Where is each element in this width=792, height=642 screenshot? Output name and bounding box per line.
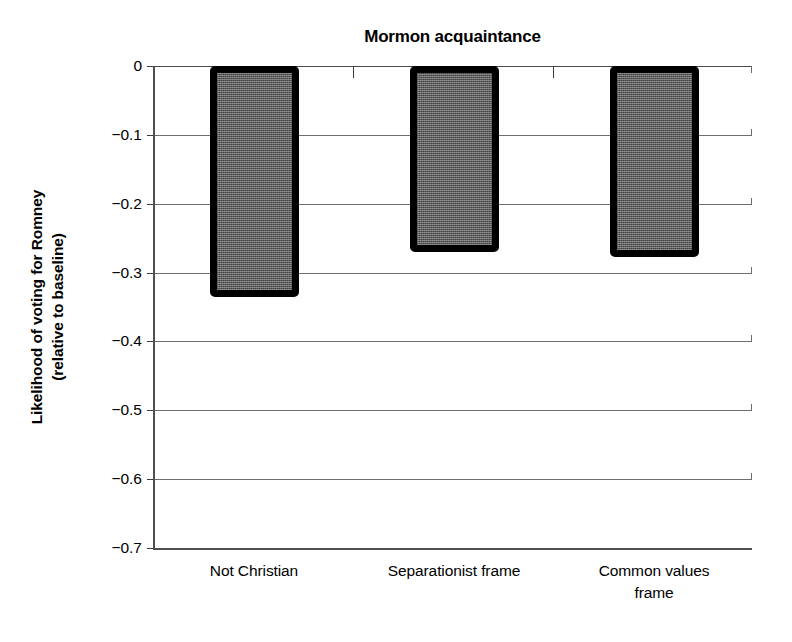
grid-end-tick-6 bbox=[751, 473, 752, 480]
x-tick-label-not-christian: Not Christian bbox=[154, 560, 354, 582]
x-axis-spine bbox=[153, 548, 752, 550]
grid-end-tick-4 bbox=[751, 335, 752, 342]
y-axis-title: Likelihood of voting for Romney (relativ… bbox=[25, 97, 69, 517]
bar-separationist-frame[interactable] bbox=[410, 66, 499, 252]
x-tick-label-separationist-frame: Separationist frame bbox=[354, 560, 554, 582]
y-tick-label-2: −0.2 bbox=[111, 196, 142, 212]
y-tick-label-4: −0.4 bbox=[111, 333, 142, 349]
y-tick-label-3: −0.3 bbox=[111, 265, 142, 281]
x-category-tick-2 bbox=[553, 67, 554, 78]
y-tick-label-7: −0.7 bbox=[111, 540, 142, 556]
grid-end-tick-5 bbox=[751, 404, 752, 411]
x-tick-label-common-values-frame: Common values frame bbox=[554, 560, 754, 604]
chart-title: Mormon acquaintance bbox=[153, 27, 752, 47]
y-tick-label-1: −0.1 bbox=[111, 127, 142, 143]
bar-not-christian[interactable] bbox=[210, 66, 299, 297]
y-tick-label-6: −0.6 bbox=[111, 471, 142, 487]
gridline-5: −0.5 bbox=[153, 410, 752, 411]
y-tick-label-5: −0.5 bbox=[111, 402, 142, 418]
x-tick-label-common-values-frame-line-2: frame bbox=[554, 582, 754, 604]
y-axis-title-line-2: (relative to baseline) bbox=[47, 233, 68, 381]
x-category-tick-1 bbox=[353, 67, 354, 78]
plot-area: 0 −0.1 −0.2 −0.3 −0.4 −0.5 bbox=[153, 66, 752, 548]
gridline-6: −0.6 bbox=[153, 479, 752, 480]
grid-end-tick-0 bbox=[751, 66, 752, 73]
x-tick-label-not-christian-line-1: Not Christian bbox=[154, 560, 354, 582]
x-tick-label-common-values-frame-line-1: Common values bbox=[554, 560, 754, 582]
grid-end-tick-3 bbox=[751, 267, 752, 274]
grid-end-tick-2 bbox=[751, 198, 752, 205]
bar-chart-figure: Mormon acquaintance Likelihood of voting… bbox=[0, 0, 792, 642]
x-tick-label-separationist-frame-line-1: Separationist frame bbox=[354, 560, 554, 582]
bar-common-values-frame[interactable] bbox=[610, 66, 699, 257]
grid-end-tick-1 bbox=[751, 129, 752, 136]
y-axis-title-line-1: Likelihood of voting for Romney bbox=[26, 190, 47, 425]
gridline-4: −0.4 bbox=[153, 341, 752, 342]
y-axis-spine bbox=[153, 66, 155, 549]
y-tick-label-0: 0 bbox=[133, 58, 142, 74]
